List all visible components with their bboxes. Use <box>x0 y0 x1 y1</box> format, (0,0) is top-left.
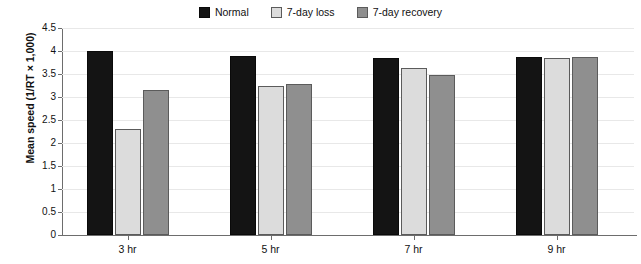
bar-group-7-hr <box>373 28 455 235</box>
x-axis-tick-label: 7 hr <box>384 243 444 255</box>
y-axis-tick-label: 3 <box>16 92 56 102</box>
bar-normal-9-hr[interactable] <box>516 57 542 235</box>
bar-7-day-recovery-9-hr[interactable] <box>572 57 598 235</box>
bar-normal-7-hr[interactable] <box>373 58 399 235</box>
y-axis-tick-mark <box>58 74 62 75</box>
bar-7-day-recovery-3-hr[interactable] <box>143 90 169 235</box>
x-axis-line <box>62 235 637 236</box>
bar-group-9-hr <box>516 28 598 235</box>
chart-legend: Normal 7-day loss 7-day recovery <box>0 3 641 21</box>
legend-swatch-7-day-loss <box>271 7 282 18</box>
bar-chart-figure: Normal 7-day loss 7-day recovery Mean sp… <box>0 0 641 264</box>
y-axis-tick-mark <box>58 143 62 144</box>
bar-group-5-hr <box>230 28 312 235</box>
y-axis-tick-label: 4 <box>16 46 56 56</box>
bar-7-day-loss-9-hr[interactable] <box>544 58 570 235</box>
x-axis-tick-mark <box>128 236 129 240</box>
bar-7-day-loss-5-hr[interactable] <box>258 86 284 236</box>
x-axis-tick-label: 9 hr <box>527 243 587 255</box>
bar-normal-3-hr[interactable] <box>87 51 113 235</box>
y-axis-tick-mark <box>58 120 62 121</box>
legend-label-7-day-loss: 7-day loss <box>287 7 335 18</box>
bar-normal-5-hr[interactable] <box>230 56 256 235</box>
y-axis-tick-label: 1.5 <box>16 161 56 171</box>
y-axis-tick-mark <box>58 166 62 167</box>
plot-area <box>62 28 634 235</box>
legend-swatch-7-day-recovery <box>357 7 368 18</box>
y-axis-tick-label: 2.5 <box>16 115 56 125</box>
x-axis-tick-mark <box>557 236 558 240</box>
y-axis-tick-label: 4.5 <box>16 23 56 33</box>
bar-7-day-loss-7-hr[interactable] <box>401 68 427 235</box>
y-axis-tick-mark <box>58 51 62 52</box>
x-axis-tick-mark <box>271 236 272 240</box>
bar-7-day-loss-3-hr[interactable] <box>115 129 141 235</box>
legend-item-7-day-loss: 7-day loss <box>271 7 335 18</box>
y-axis-tick-mark <box>58 212 62 213</box>
x-axis-tick-label: 3 hr <box>98 243 158 255</box>
bar-group-3-hr <box>87 28 169 235</box>
legend-label-normal: Normal <box>215 7 249 18</box>
legend-item-7-day-recovery: 7-day recovery <box>357 7 442 18</box>
x-axis-tick-label: 5 hr <box>241 243 301 255</box>
legend-item-normal: Normal <box>199 7 249 18</box>
y-axis-tick-label: 2 <box>16 138 56 148</box>
x-axis-tick-mark <box>414 236 415 240</box>
y-axis-tick-label: 0.5 <box>16 207 56 217</box>
y-axis-tick-label: 0 <box>16 230 56 240</box>
bar-7-day-recovery-5-hr[interactable] <box>286 84 312 235</box>
y-axis-tick-mark <box>58 97 62 98</box>
bar-7-day-recovery-7-hr[interactable] <box>429 75 455 235</box>
legend-swatch-normal <box>199 7 210 18</box>
y-axis-tick-mark <box>58 235 62 236</box>
y-axis-tick-mark <box>58 189 62 190</box>
y-axis-tick-label: 1 <box>16 184 56 194</box>
y-axis-tick-labels: 00.511.522.533.544.5 <box>10 0 56 264</box>
y-axis-tick-label: 3.5 <box>16 69 56 79</box>
y-axis-tick-mark <box>58 28 62 29</box>
legend-label-7-day-recovery: 7-day recovery <box>373 7 442 18</box>
